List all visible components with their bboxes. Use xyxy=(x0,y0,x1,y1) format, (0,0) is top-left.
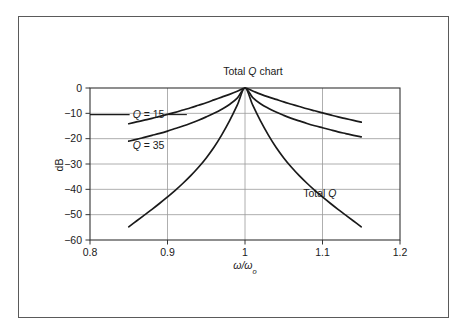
y-tick-label: −50 xyxy=(64,208,82,220)
total-q-chart: 0.80.911.11.2 0−10−20−30−40−50−60 Total … xyxy=(0,0,470,335)
svg-text:Total Q chart: Total Q chart xyxy=(223,65,283,77)
x-tick-label: 0.8 xyxy=(83,246,98,258)
x-axis-title: ω/ωo xyxy=(233,259,256,276)
y-tick-label: 0 xyxy=(76,82,82,94)
y-axis-tick-labels: 0−10−20−30−40−50−60 xyxy=(64,82,82,246)
x-tick-label: 1 xyxy=(242,246,248,258)
y-tick-label: −20 xyxy=(64,132,82,144)
q35-label: Q = 35 xyxy=(133,139,165,151)
svg-text:dB: dB xyxy=(53,159,65,172)
y-tick-label: −10 xyxy=(64,107,82,119)
q15-label: Q = 15 xyxy=(133,108,165,120)
x-tick-label: 0.9 xyxy=(160,246,175,258)
x-axis-tick-labels: 0.80.911.11.2 xyxy=(83,246,408,258)
series-annotations: Q = 15Q = 35Total Q xyxy=(133,108,337,199)
x-tick-label: 1.1 xyxy=(315,246,330,258)
figure-container: 0.80.911.11.2 0−10−20−30−40−50−60 Total … xyxy=(0,0,470,335)
y-tick-label: −30 xyxy=(64,158,82,170)
y-axis-title: dB xyxy=(53,159,65,172)
svg-text:ω/ωo: ω/ωo xyxy=(233,259,256,276)
y-tick-label: −60 xyxy=(64,234,82,246)
x-tick-label: 1.2 xyxy=(393,246,408,258)
y-tick-label: −40 xyxy=(64,183,82,195)
chart-title: Total Q chart xyxy=(223,65,283,77)
totalq-label: Total Q xyxy=(303,187,336,199)
